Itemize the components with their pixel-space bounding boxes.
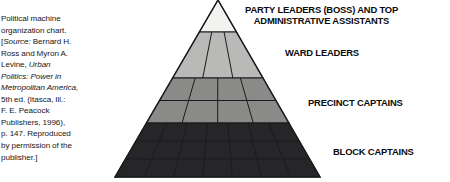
pyramid-band-1 bbox=[199, 0, 236, 32]
tier-label-block-captains: BLOCK CAPTAINS bbox=[333, 146, 414, 157]
tier-label-ward-leaders: WARD LEADERS bbox=[285, 47, 359, 58]
tier-label-precinct-captains: PRECINCT CAPTAINS bbox=[308, 97, 403, 108]
pyramid-diagram bbox=[0, 0, 340, 182]
tier-label-party-leaders: PARTY LEADERS (BOSS) AND TOP ADMINISTRAT… bbox=[245, 4, 398, 27]
pyramid-band-4 bbox=[115, 123, 320, 177]
figure-root: Political machineorganization chart.[Sou… bbox=[0, 0, 450, 182]
